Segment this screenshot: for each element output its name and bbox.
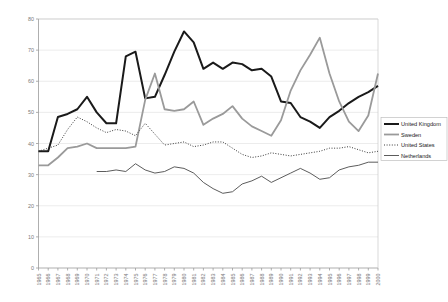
x-axis-tick-label: 1983 [210, 274, 216, 286]
line-chart: 01020304050607080 1965196619671968196919… [0, 0, 448, 302]
x-axis-tick-label: 1985 [230, 274, 236, 286]
series-line-netherlands [97, 162, 378, 193]
x-axis-tick-label: 1970 [84, 274, 90, 286]
x-axis-tick-label: 1974 [123, 274, 129, 286]
x-axis-tick-label: 1991 [288, 274, 294, 286]
x-axis-tick-label: 1967 [55, 274, 61, 286]
y-axis-tick-label: 0 [31, 265, 34, 271]
legend-label-sweden: Sweden [401, 132, 421, 138]
x-axis-tick-label: 1968 [65, 274, 71, 286]
x-axis-tick-label: 1981 [191, 274, 197, 286]
y-axis-tick-label: 70 [28, 47, 34, 53]
y-axis-tick-label: 10 [28, 234, 34, 240]
x-axis-tick-label: 1980 [181, 274, 187, 286]
x-axis-tick-label: 1986 [239, 274, 245, 286]
x-axis-tick-label: 1999 [365, 274, 371, 286]
y-axis-tick-label: 20 [28, 203, 34, 209]
x-axis-tick-label: 1998 [356, 274, 362, 286]
x-axis-tick-label: 1987 [249, 274, 255, 286]
x-axis-tick-label: 1978 [162, 274, 168, 286]
y-axis-tick-label: 30 [28, 172, 34, 178]
x-axis-tick-label: 1965 [36, 274, 42, 286]
x-axis-tick-label: 1975 [133, 274, 139, 286]
y-axis-tick-label: 40 [28, 141, 34, 147]
x-axis-tick-label: 1993 [307, 274, 313, 286]
x-axis-tick-label: 1982 [200, 274, 206, 286]
legend-label-united-kingdom: United Kingdom [401, 121, 441, 127]
x-axis-tick-label: 1992 [297, 274, 303, 286]
x-axis-tick-label: 1976 [142, 274, 148, 286]
x-axis-tick-label: 1997 [346, 274, 352, 286]
chart-canvas: 01020304050607080 1965196619671968196919… [0, 0, 448, 302]
xtick-label-group: 1965196619671968196919701971197219731974… [36, 268, 382, 286]
legend-label-netherlands: Netherlands [401, 153, 431, 159]
ytick-label-group: 01020304050607080 [28, 16, 39, 271]
grid-group [39, 19, 379, 237]
x-axis-tick-label: 1988 [259, 274, 265, 286]
x-axis-tick-label: 1977 [152, 274, 158, 286]
x-axis-tick-label: 1984 [220, 274, 226, 286]
x-axis-tick-label: 1979 [171, 274, 177, 286]
y-axis-tick-label: 80 [28, 16, 34, 22]
x-axis-tick-label: 1969 [74, 274, 80, 286]
x-axis-tick-label: 1990 [278, 274, 284, 286]
x-axis-tick-label: 1994 [317, 274, 323, 286]
x-axis-tick-label: 1995 [327, 274, 333, 286]
series-line-united-states [39, 117, 379, 157]
x-axis-tick-label: 1966 [45, 274, 51, 286]
x-axis-tick-label: 2000 [375, 274, 381, 286]
x-axis-tick-label: 1989 [268, 274, 274, 286]
chart-legend: United KingdomSwedenUnited StatesNetherl… [381, 118, 447, 161]
x-axis-tick-label: 1971 [94, 274, 100, 286]
legend-label-united-states: United States [401, 142, 435, 148]
x-axis-tick-label: 1973 [113, 274, 119, 286]
x-axis-tick-label: 1996 [336, 274, 342, 286]
x-axis-tick-label: 1972 [103, 274, 109, 286]
y-axis-tick-label: 60 [28, 78, 34, 84]
series-line-united-kingdom [39, 31, 379, 151]
y-axis-tick-label: 50 [28, 109, 34, 115]
